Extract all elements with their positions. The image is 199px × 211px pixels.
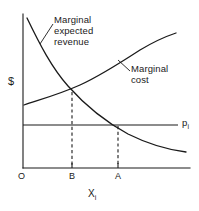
leader-line-marginal-cost [118, 60, 130, 71]
x-axis-label-main: X [88, 188, 95, 199]
figure-container: Marginal expected revenue Marginal cost … [0, 0, 199, 211]
marginal-expected-revenue-label: Marginal expected revenue [54, 14, 93, 48]
chart-canvas [0, 0, 199, 211]
origin-label: O [18, 171, 25, 182]
price-label-subscript: i [187, 123, 189, 130]
x-axis-label-subscript: i [95, 194, 97, 201]
x-axis-label: Xi [88, 188, 96, 202]
mer-label-line-3: revenue [54, 36, 93, 47]
x-tick-label-b: B [69, 171, 75, 182]
mc-label-line-2: cost [131, 74, 168, 85]
leader-line-marginal-expected-revenue [40, 24, 53, 44]
mc-label-line-1: Marginal [131, 63, 168, 74]
mer-label-line-1: Marginal [54, 14, 93, 25]
price-line-label: pi [182, 117, 189, 131]
mer-label-line-2: expected [54, 25, 93, 36]
marginal-cost-label: Marginal cost [131, 63, 168, 85]
y-axis-label: $ [8, 75, 14, 88]
x-tick-label-a: A [115, 171, 121, 182]
